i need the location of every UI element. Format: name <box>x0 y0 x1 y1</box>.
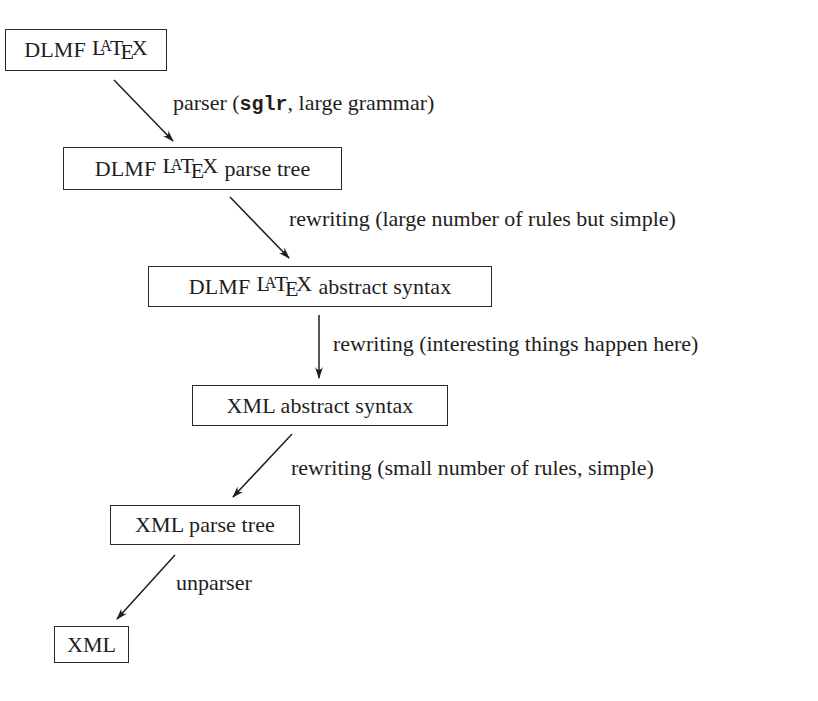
edge-label-rewriting-large: rewriting (large number of rules but sim… <box>289 208 676 230</box>
latex-logo: LATEX <box>162 153 218 184</box>
node-xml-abstract-syntax: XML abstract syntax <box>192 385 448 426</box>
code-sglr: sglr <box>240 93 288 116</box>
edge-label-rewriting-small: rewriting (small number of rules, simple… <box>291 457 654 479</box>
latex-logo: LATEX <box>256 271 312 302</box>
node-dlmf-latex: DLMFLATEX <box>5 29 167 71</box>
node-label-suffix: abstract syntax <box>318 274 451 300</box>
edge-label-parser: parser (sglr, large grammar) <box>173 92 434 115</box>
node-label-suffix: parse tree <box>224 156 310 182</box>
edge-arrow-rewriting-3 <box>233 434 292 497</box>
edge-arrow-rewriting-1 <box>230 197 289 258</box>
edge-label-rewriting-interesting: rewriting (interesting things happen her… <box>333 333 698 355</box>
latex-logo: LATEX <box>92 35 148 66</box>
edge-label-unparser: unparser <box>176 572 252 594</box>
node-label: XML parse tree <box>135 512 275 538</box>
node-label: XML abstract syntax <box>227 393 414 419</box>
node-xml: XML <box>54 626 129 663</box>
node-xml-parse-tree: XML parse tree <box>110 505 300 545</box>
node-label-prefix: DLMF <box>24 37 86 63</box>
node-dlmf-latex-abstract-syntax: DLMFLATEXabstract syntax <box>148 266 492 307</box>
edge-arrow-parser <box>114 80 173 141</box>
node-label-prefix: DLMF <box>95 156 157 182</box>
edge-arrow-unparser <box>117 555 175 619</box>
node-label: XML <box>67 632 116 658</box>
node-label-prefix: DLMF <box>189 274 251 300</box>
node-dlmf-latex-parse-tree: DLMFLATEXparse tree <box>63 147 342 190</box>
